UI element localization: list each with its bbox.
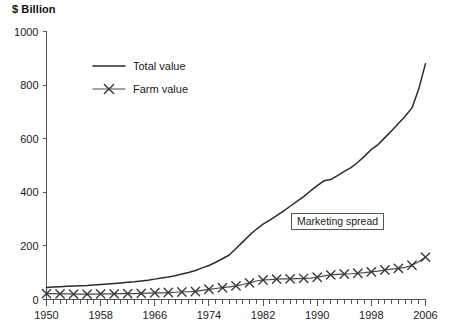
chart-axes [43,31,426,306]
line-chart-plot: 0200400600800100019501958196619741982199… [0,0,449,330]
y-axis-tick-label: 800 [20,79,38,91]
annotation-marketing-spread: Marketing spread [292,214,384,230]
y-axis-tick-label: 600 [20,133,38,145]
data-point-marker-x [245,279,253,287]
chart-tick-labels: 0200400600800100019501958196619741982199… [14,26,438,321]
data-point-marker-x [421,253,429,261]
series-line-total-value [47,64,426,288]
chart-annotations: Marketing spread [292,214,384,230]
x-axis-tick-label: 2006 [413,309,437,321]
annotation-label: Marketing spread [297,215,378,227]
legend-label-farm-value: Farm value [133,83,188,95]
chart-legend: Total valueFarm value [93,60,188,95]
y-axis-tick-label: 0 [32,294,38,306]
y-axis-tick-label: 200 [20,240,38,252]
legend-item-total-value: Total value [93,60,186,72]
legend-item-farm-value: Farm value [93,83,188,95]
chart-container: $ Billion 020040060080010001950195819661… [0,0,449,330]
x-axis-tick-label: 1974 [197,309,221,321]
x-axis-tick-label: 1990 [305,309,329,321]
chart-series-group [42,64,429,299]
data-point-marker-x [408,261,416,269]
x-axis-tick-label: 1950 [34,309,58,321]
x-axis-tick-label: 1958 [88,309,112,321]
y-axis-tick-label: 400 [20,186,38,198]
x-axis-tick-label: 1982 [251,309,275,321]
legend-label-total-value: Total value [133,60,186,72]
series-line-farm-value [47,257,426,294]
x-axis-tick-label: 1966 [143,309,167,321]
x-axis-tick-label: 1998 [359,309,383,321]
y-axis-tick-label: 1000 [14,26,38,38]
